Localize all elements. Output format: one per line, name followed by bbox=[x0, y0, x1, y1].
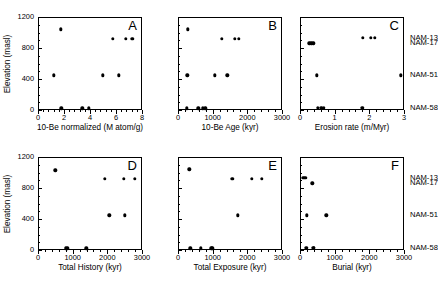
x-tick bbox=[355, 250, 356, 252]
scatter-panel-d: D010002000300004008001200Elevation (masl… bbox=[38, 157, 142, 250]
data-point bbox=[233, 37, 236, 40]
x-tick bbox=[390, 250, 391, 252]
data-point bbox=[237, 37, 240, 40]
scatter-panel-b: B010002000300010-Be Age (kyr) bbox=[178, 17, 282, 110]
x-tick bbox=[314, 250, 315, 252]
data-point bbox=[305, 246, 308, 249]
x-tick bbox=[227, 110, 228, 112]
x-tick bbox=[66, 250, 67, 252]
data-point bbox=[87, 107, 90, 110]
x-tick bbox=[106, 110, 107, 112]
plot-area bbox=[178, 17, 282, 110]
x-tick bbox=[111, 110, 112, 112]
x-tick bbox=[275, 110, 276, 112]
x-tick-label: 0 bbox=[36, 254, 40, 262]
data-point bbox=[260, 177, 263, 180]
x-tick bbox=[206, 250, 207, 252]
x-tick bbox=[199, 110, 200, 112]
x-tick bbox=[80, 250, 81, 252]
sample-label-nam-58: NAM-58 bbox=[410, 244, 438, 252]
x-tick bbox=[390, 110, 391, 112]
data-point bbox=[131, 37, 134, 40]
plot-area bbox=[38, 17, 142, 110]
x-tick bbox=[275, 250, 276, 252]
x-tick-label: 8 bbox=[140, 114, 144, 122]
x-tick bbox=[45, 250, 46, 252]
data-point bbox=[60, 107, 63, 110]
x-tick-label: 1000 bbox=[204, 114, 220, 122]
x-tick bbox=[137, 110, 138, 112]
x-tick-label: 6 bbox=[114, 114, 118, 122]
data-point bbox=[204, 107, 207, 110]
x-tick bbox=[240, 250, 241, 252]
x-tick-label: 2 bbox=[367, 114, 371, 122]
y-axis-title: Elevation (masl) bbox=[3, 34, 12, 93]
plot-area bbox=[38, 157, 142, 250]
x-tick bbox=[85, 110, 86, 112]
data-point bbox=[305, 213, 308, 216]
x-tick bbox=[114, 250, 115, 252]
x-tick bbox=[240, 110, 241, 112]
data-point bbox=[108, 213, 111, 216]
data-point bbox=[186, 73, 189, 76]
x-tick bbox=[261, 110, 262, 112]
x-tick bbox=[220, 250, 221, 252]
x-tick bbox=[192, 250, 193, 252]
y-tick-label: 1200 bbox=[18, 13, 34, 21]
x-tick bbox=[206, 110, 207, 112]
data-point bbox=[303, 176, 306, 179]
data-point bbox=[54, 168, 57, 171]
x-tick-label: 2000 bbox=[239, 254, 255, 262]
data-point bbox=[322, 106, 325, 109]
data-point bbox=[117, 73, 120, 76]
x-tick bbox=[121, 110, 122, 112]
data-point bbox=[123, 213, 126, 216]
x-tick bbox=[254, 110, 255, 112]
scatter-panel-a: A0246804008001200Elevation (masl)10-Be n… bbox=[38, 17, 142, 110]
data-point bbox=[199, 247, 202, 250]
x-tick bbox=[87, 250, 88, 252]
x-tick bbox=[254, 250, 255, 252]
sample-label-nam-51: NAM-51 bbox=[410, 211, 438, 219]
x-tick bbox=[132, 110, 133, 112]
x-tick bbox=[126, 110, 127, 112]
sample-label-nam-51: NAM-51 bbox=[410, 71, 438, 79]
x-tick bbox=[376, 250, 377, 252]
sample-label-nam-58: NAM-58 bbox=[410, 104, 438, 112]
x-tick bbox=[100, 250, 101, 252]
x-tick bbox=[227, 250, 228, 252]
x-tick-label: 1 bbox=[333, 114, 337, 122]
x-tick bbox=[355, 110, 356, 112]
x-tick bbox=[80, 110, 81, 112]
data-point bbox=[231, 177, 234, 180]
x-tick bbox=[59, 110, 60, 112]
x-tick-label: 0 bbox=[36, 114, 40, 122]
x-tick bbox=[69, 110, 70, 112]
data-point bbox=[133, 177, 136, 180]
y-tick bbox=[38, 110, 42, 111]
data-point bbox=[312, 246, 315, 249]
data-point bbox=[325, 213, 328, 216]
data-point bbox=[250, 177, 253, 180]
data-point bbox=[122, 177, 125, 180]
y-tick-label: 1200 bbox=[18, 153, 34, 161]
x-tick-label: 2 bbox=[62, 114, 66, 122]
data-point bbox=[103, 177, 106, 180]
x-tick bbox=[233, 250, 234, 252]
data-point bbox=[65, 247, 68, 250]
x-tick bbox=[268, 250, 269, 252]
data-point bbox=[186, 28, 189, 31]
x-axis-title: Erosion rate (m/Myr) bbox=[315, 123, 390, 132]
data-point bbox=[226, 73, 229, 76]
y-tick bbox=[300, 250, 304, 251]
x-axis-title: Total Exposure (kyr) bbox=[194, 263, 267, 272]
y-tick-label: 800 bbox=[22, 44, 34, 52]
x-tick bbox=[59, 250, 60, 252]
x-axis-title: Burial (kyr) bbox=[332, 263, 372, 272]
x-tick bbox=[43, 110, 44, 112]
x-tick bbox=[349, 110, 350, 112]
x-tick-label: 1000 bbox=[326, 254, 342, 262]
data-point bbox=[185, 107, 188, 110]
x-tick bbox=[128, 250, 129, 252]
x-tick bbox=[74, 110, 75, 112]
